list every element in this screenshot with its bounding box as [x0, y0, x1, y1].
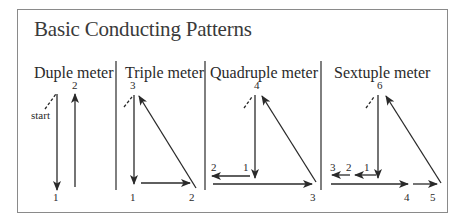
beat-label: 2	[72, 79, 78, 91]
beat-label: 4	[404, 191, 410, 203]
start-label: start	[31, 109, 50, 121]
conducting-patterns-diagram: start 1 2 1 2 3 1 2 3 4 1 2 3 4 5 6	[0, 0, 465, 221]
beat-label: 3	[130, 79, 136, 91]
beat-label: 4	[254, 79, 260, 91]
beat-label: 2	[189, 191, 195, 203]
beat-label: 1	[243, 161, 249, 173]
start-dash	[124, 97, 132, 107]
pattern-triple	[124, 95, 196, 188]
beat-label: 2	[346, 161, 352, 173]
beat-label: 2	[211, 161, 217, 173]
beat-label: 1	[53, 191, 59, 203]
beat-label: 3	[330, 161, 336, 173]
beat-label: 6	[377, 79, 383, 91]
beat-4-upstroke-arrow	[262, 96, 316, 182]
beat-3-upstroke-arrow	[139, 96, 196, 188]
start-dash	[366, 97, 374, 108]
start-dash	[45, 94, 56, 109]
beat-label: 3	[310, 191, 316, 203]
beat-label: 1	[364, 161, 370, 173]
beat-label: 1	[130, 191, 136, 203]
beat-label: 5	[430, 191, 436, 203]
beat-6-upstroke-arrow	[386, 96, 441, 183]
pattern-quadruple	[212, 95, 316, 184]
start-dash	[244, 97, 252, 108]
section-dividers	[116, 61, 321, 190]
